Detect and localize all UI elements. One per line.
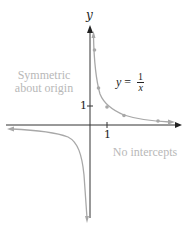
intercepts-annotation: No intercepts <box>110 146 180 159</box>
equation-label: y = 1 x <box>116 72 144 93</box>
x-tick-label: 1 <box>104 128 111 141</box>
curve-point <box>105 105 109 109</box>
symmetry-line-2: about origin <box>14 82 74 95</box>
curve-arrow-left-icon <box>7 127 14 132</box>
curve-negative-branch <box>12 129 87 218</box>
equation-denominator: x <box>138 83 142 93</box>
equation-fraction: 1 x <box>137 72 144 93</box>
y-axis-label: y <box>86 8 93 22</box>
x-axis-arrow-icon <box>175 122 182 128</box>
curve-point <box>122 114 126 118</box>
symmetry-annotation: Symmetric about origin <box>14 69 74 95</box>
equation-equals: = <box>124 75 131 90</box>
y-axis-arrow-icon <box>87 25 93 33</box>
equation-lhs: y <box>116 75 121 90</box>
curve-point <box>97 86 101 90</box>
y-tick-label: 1 <box>80 99 87 112</box>
curve-point <box>156 119 160 123</box>
curve-arrow-down-icon <box>85 216 89 223</box>
curve-arrow-right-icon <box>168 120 175 125</box>
curve-point <box>93 48 97 52</box>
graph-canvas <box>0 0 185 233</box>
